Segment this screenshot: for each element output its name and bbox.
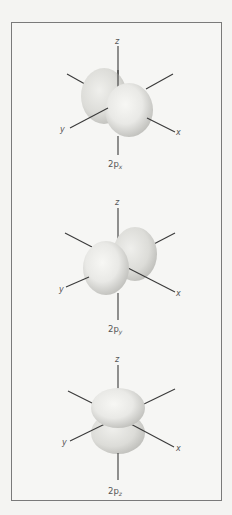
axis-label-y: y <box>59 125 65 134</box>
orbital-2pz: z y x 2pz <box>61 355 181 497</box>
axis-label-y: y <box>61 438 67 447</box>
lobe-upper <box>91 388 145 428</box>
orbital-caption: 2py <box>108 324 123 336</box>
axis-label-x: x <box>175 289 181 298</box>
axis-x <box>147 118 175 132</box>
lobe-front <box>105 83 153 137</box>
orbital-2px: z y x 2px <box>59 37 181 170</box>
orbital-caption: 2px <box>108 159 123 170</box>
axis-back-left <box>65 233 92 247</box>
axis-label-y: y <box>58 285 64 294</box>
axis-label-x: x <box>175 444 181 453</box>
axis-label-z: z <box>114 198 120 207</box>
axis-label-z: z <box>114 355 120 364</box>
axis-label-z: z <box>114 37 120 46</box>
orbital-2py: z y x 2py <box>58 198 181 336</box>
lobe-front <box>83 241 129 295</box>
axis-back-right <box>144 389 175 404</box>
axis-back-left <box>68 391 94 404</box>
axis-label-x: x <box>175 128 181 137</box>
axis-y <box>66 277 89 287</box>
orbital-caption: 2pz <box>108 486 123 497</box>
orbital-diagram: z y x 2px z y x 2py z y x 2pz <box>0 0 232 515</box>
axis-back-right <box>146 74 173 89</box>
